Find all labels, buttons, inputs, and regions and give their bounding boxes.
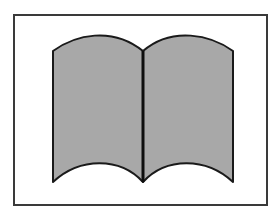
left-page [53, 35, 143, 182]
open-book-icon [0, 0, 280, 217]
canvas [0, 0, 280, 217]
right-page [143, 35, 233, 182]
